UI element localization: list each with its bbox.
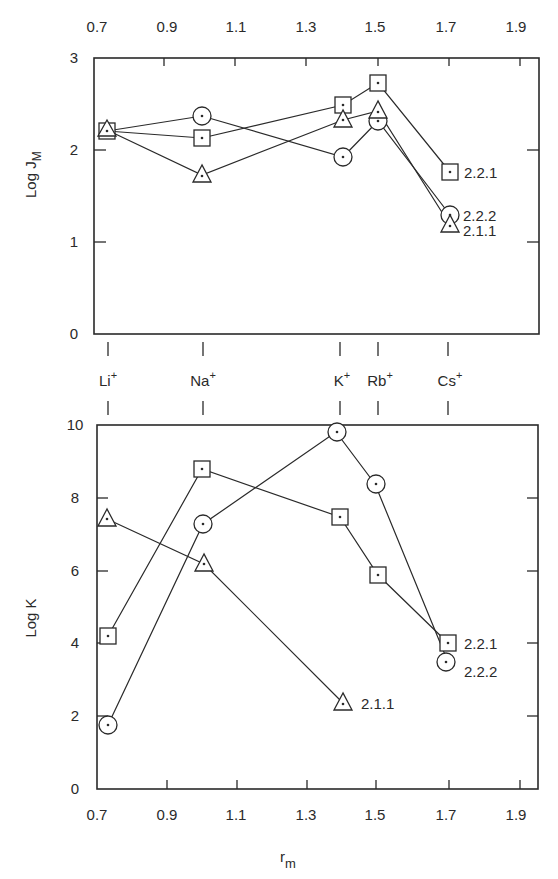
- bottom-series-lines: [107, 432, 448, 725]
- triangle-marker: [98, 509, 116, 526]
- ion-labels: Li+ Na+ K+ Rb+ Cs+: [99, 369, 462, 389]
- x-tick-label: 1.5: [365, 806, 386, 823]
- top-panel-top-ticks: [164, 58, 520, 66]
- y-tick-label: 1: [70, 233, 78, 250]
- top-line-2-1-1: [107, 111, 450, 225]
- bottom-markers: [98, 423, 456, 734]
- y-tick-label: 2: [70, 141, 78, 158]
- top-plot-frame: [94, 58, 539, 334]
- x-tick-label: 1.9: [506, 806, 527, 823]
- bottom-label-2-1-1: 2.1.1: [361, 695, 394, 712]
- x-tick-label: 0.9: [157, 806, 178, 823]
- bottom-series-labels: 2.2.1 2.2.2 2.1.1: [361, 635, 497, 712]
- ion-label-rb: Rb+: [367, 369, 393, 389]
- ion-label-cs: Cs+: [438, 369, 463, 389]
- y-tick-label: 0: [71, 780, 79, 797]
- top-line-2-2-1: [107, 83, 450, 172]
- top-ylabel-main: Log J: [22, 161, 39, 198]
- top-x-tick-labels: 0.7 0.9 1.1 1.3 1.5 1.7 1.9: [87, 18, 527, 35]
- bottom-label-2-2-2: 2.2.2: [464, 663, 497, 680]
- triangle-marker: [369, 101, 387, 118]
- y-tick-label: 4: [71, 634, 79, 651]
- bottom-panel-x-ticks: [167, 780, 520, 789]
- svg-text:Log JM: Log JM: [22, 151, 44, 198]
- x-tick-label: 1.1: [226, 18, 247, 35]
- triangle-marker: [195, 554, 213, 571]
- triangle-marker: [334, 693, 352, 710]
- x-tick-label: 1.3: [296, 18, 317, 35]
- ion-label-k: K+: [334, 369, 350, 389]
- svg-text:Log K: Log K: [22, 598, 39, 637]
- x-axis-label: rm: [280, 848, 296, 871]
- x-tick-label: 1.1: [226, 806, 247, 823]
- y-tick-label: 2: [71, 707, 79, 724]
- x-tick-label: 0.9: [157, 18, 178, 35]
- bottom-line-2-2-2: [108, 432, 448, 725]
- x-tick-label: 1.5: [365, 18, 386, 35]
- top-line-2-2-2: [107, 116, 450, 215]
- y-tick-label: 6: [71, 562, 79, 579]
- ion-label-li: Li+: [99, 369, 117, 389]
- y-tick-label: 10: [67, 416, 84, 433]
- x-tick-label: 0.7: [87, 806, 108, 823]
- y-tick-label: 3: [70, 49, 78, 66]
- bottom-marker-dots: [106, 431, 450, 727]
- ion-guide-ticks: [108, 342, 448, 415]
- top-series-labels: 2.2.1 2.2.2 2.1.1: [463, 164, 497, 239]
- top-label-2-1-1: 2.1.1: [463, 222, 496, 239]
- bottom-label-2-2-1: 2.2.1: [464, 635, 497, 652]
- x-tick-label: 1.7: [436, 18, 457, 35]
- y-tick-label: 0: [70, 325, 78, 342]
- x-tick-label: 0.7: [87, 18, 108, 35]
- top-panel: [94, 58, 539, 334]
- triangle-marker: [193, 165, 211, 182]
- bottom-y-axis-label: Log K: [22, 598, 39, 637]
- top-ylabel-sub: M: [30, 151, 44, 161]
- bottom-x-tick-labels: 0.7 0.9 1.1 1.3 1.5 1.7 1.9: [87, 806, 527, 823]
- top-y-axis-label: Log JM: [22, 151, 44, 198]
- top-y-tick-labels: 3 2 1 0: [70, 49, 78, 342]
- chart-figure: 0.7 0.9 1.1 1.3 1.5 1.7 1.9 3 2 1 0: [0, 0, 558, 879]
- bottom-line-2-1-1: [107, 519, 343, 703]
- ion-label-na: Na+: [190, 369, 216, 389]
- bottom-y-tick-labels: 10 8 6 4 2 0: [67, 416, 84, 797]
- x-tick-label: 1.3: [296, 806, 317, 823]
- x-tick-label: 1.7: [436, 806, 457, 823]
- top-series-lines: [107, 83, 450, 225]
- top-label-2-2-1: 2.2.1: [464, 164, 497, 181]
- x-tick-label: 1.9: [506, 18, 527, 35]
- y-tick-label: 8: [71, 489, 79, 506]
